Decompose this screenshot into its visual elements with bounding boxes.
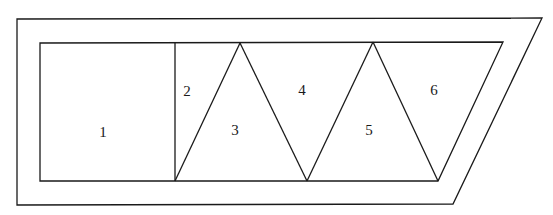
diagonal-line [373,42,438,181]
region-label-1: 1 [99,124,107,140]
region-label-6: 6 [430,82,438,98]
diagram-canvas: 1 2 3 4 5 6 [0,0,553,215]
inner-trapezoid [40,42,503,181]
diagonal-line [307,42,373,181]
region-label-2: 2 [183,83,191,99]
region-label-5: 5 [365,122,373,138]
region-label-4: 4 [298,82,306,98]
diagonal-line [240,43,307,181]
outer-trapezoid [17,18,542,205]
region-label-3: 3 [231,122,239,138]
diagonal-line [175,43,240,181]
